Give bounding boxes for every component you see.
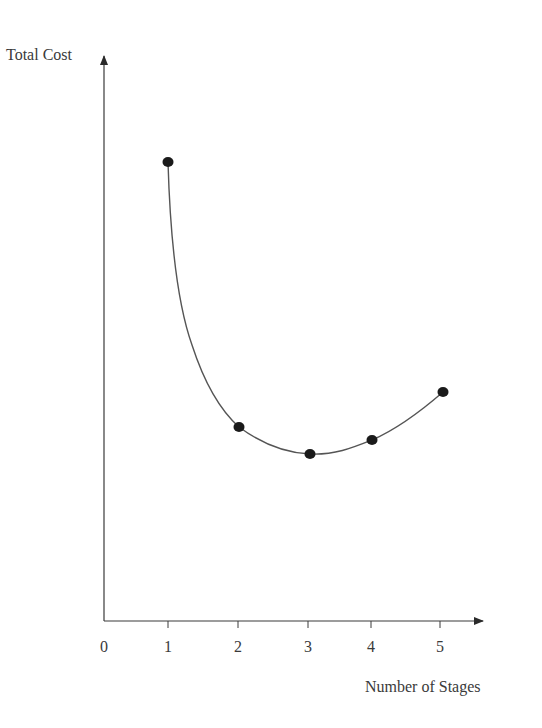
chart-canvas: Total Cost Number of Stages 0 1 2 3 4 5 — [0, 0, 542, 728]
x-tick-label: 5 — [436, 638, 444, 655]
data-points — [163, 157, 449, 459]
data-point-stage-3 — [305, 449, 316, 459]
x-tick-label: 3 — [304, 638, 312, 655]
x-axis-label: Number of Stages — [365, 678, 481, 696]
x-tick-label: 2 — [234, 638, 242, 655]
data-point-stage-5 — [438, 387, 449, 397]
x-tick-label: 1 — [164, 638, 172, 655]
data-point-stage-4 — [367, 435, 378, 445]
data-point-stage-2 — [234, 422, 245, 432]
x-tick-label: 4 — [367, 638, 375, 655]
data-point-stage-1 — [163, 157, 174, 167]
x-ticks — [168, 621, 440, 628]
total-cost-curve — [168, 162, 443, 454]
origin-label: 0 — [100, 638, 108, 655]
y-axis-label: Total Cost — [6, 46, 73, 63]
